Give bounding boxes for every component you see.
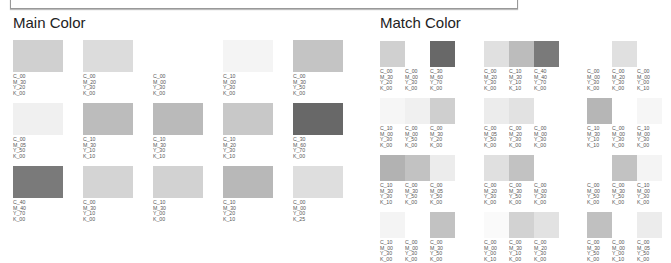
match-color-cmyk-label: C_00M_20Y_30K_00 [484, 183, 497, 205]
cmyk-k-value: K_00 [587, 200, 600, 206]
match-color-cmyk-label: C_00M_00Y_30K_00 [405, 69, 418, 91]
match-color-swatch [405, 155, 430, 181]
match-color-swatch [637, 41, 662, 67]
main-color-swatch [83, 40, 133, 72]
match-color-cmyk-label: C_00M_00Y_00K_10 [637, 69, 650, 91]
match-color-cmyk-label: C_00M_00Y_30K_00 [587, 69, 600, 91]
main-color-swatch [223, 166, 273, 198]
cmyk-k-value: K_10 [612, 257, 625, 263]
match-color-cmyk-label: C_40M_40Y_70K_00 [534, 69, 547, 91]
cmyk-k-value: K_00 [223, 91, 236, 97]
match-color-swatch [637, 155, 662, 181]
main-color-swatch [83, 103, 133, 135]
match-color-cmyk-label: C_10M_30Y_30K_10 [380, 183, 393, 205]
cmyk-k-value: K_00 [405, 257, 418, 263]
match-color-cmyk-label: C_00M_05Y_50K_00 [637, 240, 650, 262]
main-color-cmyk-label: C_00M_00Y_00K_25 [293, 200, 306, 222]
main-color-cmyk-label: C_00M_30Y_10K_00 [83, 200, 96, 222]
main-color-cmyk-label: C_30M_60Y_70K_00 [293, 137, 306, 159]
cmyk-k-value: K_10 [223, 154, 236, 160]
main-color-cmyk-label: C_10M_30Y_20K_10 [223, 200, 236, 222]
cmyk-k-value: K_00 [13, 154, 26, 160]
match-color-swatch [587, 212, 612, 238]
match-color-swatch [637, 212, 662, 238]
cmyk-k-value: K_00 [380, 143, 393, 149]
cmyk-k-value: K_10 [484, 257, 497, 263]
cmyk-k-value: K_00 [430, 143, 443, 149]
cmyk-k-value: K_00 [13, 217, 26, 223]
match-color-cmyk-label: C_00M_00Y_00K_10 [612, 240, 625, 262]
match-color-swatch [612, 212, 637, 238]
cmyk-k-value: K_00 [484, 200, 497, 206]
cmyk-k-value: K_10 [223, 217, 236, 223]
main-color-swatch [293, 40, 343, 72]
cmyk-k-value: K_00 [430, 257, 443, 263]
main-color-cmyk-label: C_10M_30Y_30K_10 [153, 137, 166, 159]
cmyk-k-value: K_00 [612, 86, 625, 92]
match-color-cmyk-label: C_10M_00Y_30K_00 [637, 183, 650, 205]
cmyk-k-value: K_00 [637, 257, 650, 263]
match-color-cmyk-label: C_00M_30Y_50K_00 [405, 183, 418, 205]
main-color-cmyk-label: C_00M_20Y_30K_00 [83, 74, 96, 96]
cmyk-k-value: K_00 [534, 257, 547, 263]
main-color-cmyk-label: C_10M_20Y_30K_10 [223, 137, 236, 159]
match-color-cmyk-label: C_00M_00Y_30K_00 [405, 240, 418, 262]
match-color-swatch [430, 98, 455, 124]
cmyk-k-value: K_00 [637, 143, 650, 149]
main-color-swatch [13, 103, 63, 135]
match-color-swatch [534, 41, 559, 67]
match-color-cmyk-label: C_10M_00Y_30K_00 [380, 126, 393, 148]
cmyk-k-value: K_00 [612, 200, 625, 206]
main-color-cmyk-label: C_00M_30Y_20K_00 [13, 74, 26, 96]
main-color-cmyk-label: C_00M_00Y_30K_00 [153, 74, 166, 96]
match-color-swatch [637, 98, 662, 124]
match-color-swatch [612, 155, 637, 181]
cmyk-k-value: K_10 [83, 154, 96, 160]
match-color-cmyk-label: C_00M_30Y_50K_00 [612, 183, 625, 205]
cmyk-k-value: K_00 [405, 143, 418, 149]
match-color-swatch [405, 98, 430, 124]
cmyk-k-value: K_10 [153, 154, 166, 160]
cmyk-k-value: K_00 [534, 200, 547, 206]
match-color-swatch [430, 155, 455, 181]
cmyk-k-value: K_00 [405, 200, 418, 206]
match-color-swatch [509, 155, 534, 181]
match-color-swatch [380, 212, 405, 238]
cmyk-k-value: K_00 [534, 143, 547, 149]
match-color-swatch [405, 41, 430, 67]
match-color-cmyk-label: C_00M_05Y_50K_00 [484, 126, 497, 148]
match-color-swatch [587, 98, 612, 124]
match-color-cmyk-label: C_00M_30Y_20K_00 [430, 126, 443, 148]
match-color-swatch [430, 212, 455, 238]
cmyk-k-value: K_00 [587, 86, 600, 92]
match-color-cmyk-label: C_00M_00Y_30K_00 [534, 183, 547, 205]
match-color-cmyk-label: C_00M_00Y_00K_10 [484, 240, 497, 262]
cmyk-k-value: K_00 [380, 86, 393, 92]
match-color-swatch [587, 155, 612, 181]
match-color-cmyk-label: C_00M_00Y_30K_00 [612, 126, 625, 148]
match-color-cmyk-label: C_30M_60Y_70K_00 [430, 69, 443, 91]
match-color-swatch [484, 98, 509, 124]
match-color-cmyk-label: C_00M_30Y_50K_00 [509, 183, 522, 205]
main-color-swatch [153, 103, 203, 135]
cmyk-k-value: K_10 [637, 86, 650, 92]
match-color-cmyk-label: C_10M_00Y_30K_00 [380, 240, 393, 262]
cmyk-k-value: K_00 [153, 217, 166, 223]
match-color-swatch [612, 98, 637, 124]
cmyk-k-value: K_00 [509, 143, 522, 149]
match-color-cmyk-label: C_00M_00Y_50K_00 [405, 126, 418, 148]
cmyk-k-value: K_00 [380, 257, 393, 263]
main-color-swatch [153, 166, 203, 198]
match-color-swatch [430, 41, 455, 67]
match-color-swatch [380, 155, 405, 181]
cmyk-k-value: K_10 [380, 200, 393, 206]
match-color-swatch [509, 212, 534, 238]
cmyk-k-value: K_00 [153, 91, 166, 97]
main-color-swatch [13, 166, 63, 198]
cmyk-k-value: K_00 [534, 86, 547, 92]
cmyk-k-value: K_00 [430, 200, 443, 206]
main-color-swatch [293, 166, 343, 198]
match-color-cmyk-label: C_10M_30Y_10K_10 [509, 69, 522, 91]
match-color-swatch [587, 41, 612, 67]
match-color-swatch [612, 41, 637, 67]
